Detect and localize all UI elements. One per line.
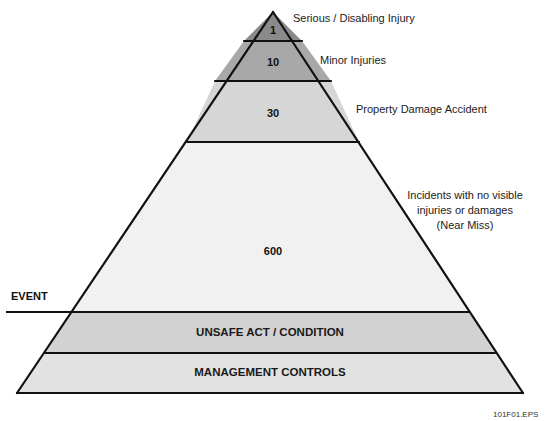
figure-id: 101F01.EPS (493, 410, 538, 419)
layer-600-label-line-2: injuries or damages (390, 203, 540, 218)
layer-30-value: 30 (253, 107, 293, 119)
layer-600-value: 600 (253, 245, 293, 257)
layer-30-label: Property Damage Accident (356, 103, 487, 115)
band-unsafe-act-label: UNSAFE ACT / CONDITION (120, 326, 420, 338)
layer-10-label: Minor Injuries (320, 54, 386, 66)
layer-600-label-line-3: (Near Miss) (390, 218, 540, 233)
layer-1-value: 1 (253, 24, 293, 36)
layer-1-label: Serious / Disabling Injury (293, 12, 415, 24)
event-label: EVENT (11, 290, 48, 302)
layer-600-label: Incidents with no visible injuries or da… (390, 188, 540, 233)
band-management-controls-label: MANAGEMENT CONTROLS (120, 366, 420, 378)
layer-600-label-line-1: Incidents with no visible (390, 188, 540, 203)
layer-10-value: 10 (253, 56, 293, 68)
